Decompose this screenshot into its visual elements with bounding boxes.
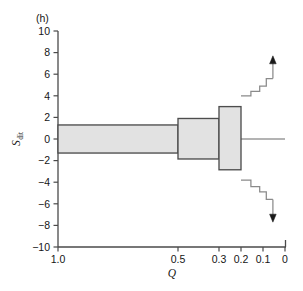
y-tick-label: −8 [38,219,50,231]
y-tick-label: 2 [44,111,50,123]
y-tick-label: 0 [44,133,50,145]
box-segment-1 [58,125,178,153]
y-tick-label: 10 [38,25,50,37]
box-segment-2 [178,118,219,159]
y-tick-label: 4 [44,90,50,102]
y-tick-label: −10 [32,241,50,253]
y-tick-label: −4 [38,176,50,188]
panel-label: (h) [36,12,49,24]
x-tick-label: 0 [282,253,288,265]
x-tick-label: 0.2 [234,253,249,265]
y-tick-label: 6 [44,68,50,80]
x-tick-label: 0.1 [256,253,271,265]
chart-container: (h) 1086420−2−4−6−8−10 1.00.50.30.20.10 … [0,0,303,291]
x-tick-label: 0.5 [171,253,186,265]
x-tick-label: 0.3 [212,253,227,265]
y-tick-label: −2 [38,154,50,166]
box-plot-figure: (h) 1086420−2−4−6−8−10 1.00.50.30.20.10 … [0,0,303,291]
x-tick-label: 1.0 [51,253,66,265]
box-segment-3 [219,107,241,170]
x-axis-title: Q [168,267,177,279]
y-tick-label: −6 [38,198,50,210]
y-tick-label: 8 [44,46,50,58]
